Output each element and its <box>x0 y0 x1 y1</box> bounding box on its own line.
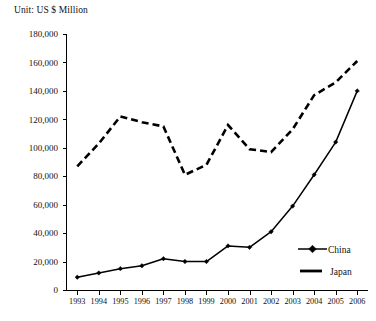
y-axis-tick-label: 180,000 <box>29 29 59 39</box>
x-axis-tick-label: 2002 <box>263 297 279 306</box>
y-axis-tick-label: 120,000 <box>29 115 59 125</box>
data-point-marker <box>118 266 122 270</box>
data-point-marker <box>140 264 144 268</box>
x-axis-tick-label: 1996 <box>134 297 150 306</box>
x-axis-tick-label: 2003 <box>284 297 300 306</box>
x-axis-tick-label: 1999 <box>198 297 214 306</box>
data-point-marker <box>355 89 359 93</box>
x-axis-tick-label: 1995 <box>112 297 128 306</box>
legend-item-japan[interactable]: Japan <box>300 267 352 277</box>
x-axis-tick-label: 2000 <box>220 297 236 306</box>
y-axis-tick-label: 140,000 <box>29 86 59 96</box>
series-markers-china <box>75 89 359 280</box>
x-axis-tick-label: 2001 <box>241 297 257 306</box>
x-axis-tick-label: 2006 <box>349 297 365 306</box>
y-axis-tick-label: 40,000 <box>33 228 58 238</box>
series-line-japan <box>77 61 357 175</box>
x-axis-tick-label: 2005 <box>328 297 344 306</box>
x-axis-tick-labels: 1993199419951996199719981999200020012002… <box>69 297 365 306</box>
data-point-marker <box>75 275 79 279</box>
chart-legend: China Japan <box>298 245 352 277</box>
legend-swatch-china-marker <box>309 245 317 253</box>
x-axis-tick-label: 1993 <box>69 297 85 306</box>
y-axis-tick-label: 0 <box>54 285 59 295</box>
x-axis-tick-label: 1994 <box>91 297 107 306</box>
data-point-marker <box>183 259 187 263</box>
legend-label-china: China <box>328 245 351 255</box>
y-axis-tick-label: 60,000 <box>33 200 58 210</box>
legend-label-japan: Japan <box>330 267 352 277</box>
legend-item-china[interactable]: China <box>298 245 351 255</box>
y-axis-tick-label: 160,000 <box>29 58 59 68</box>
x-axis-tick-label: 1998 <box>177 297 193 306</box>
y-axis-tick-label: 100,000 <box>29 143 59 153</box>
chart-container: Unit: US $ Million 020,00040,00060,00080… <box>0 0 376 321</box>
line-chart-plot: 020,00040,00060,00080,000100,000120,0001… <box>0 0 376 321</box>
y-axis-tick-label: 20,000 <box>33 257 58 267</box>
y-axis-tick-label: 80,000 <box>33 171 58 181</box>
x-axis-tick-label: 2004 <box>306 297 322 306</box>
y-axis-tick-labels: 020,00040,00060,00080,000100,000120,0001… <box>29 29 59 295</box>
data-point-marker <box>97 271 101 275</box>
x-axis-tick-marks <box>78 291 358 295</box>
y-axis-tick-marks <box>63 35 67 291</box>
data-point-marker <box>161 257 165 261</box>
x-axis-tick-label: 1997 <box>155 297 171 306</box>
